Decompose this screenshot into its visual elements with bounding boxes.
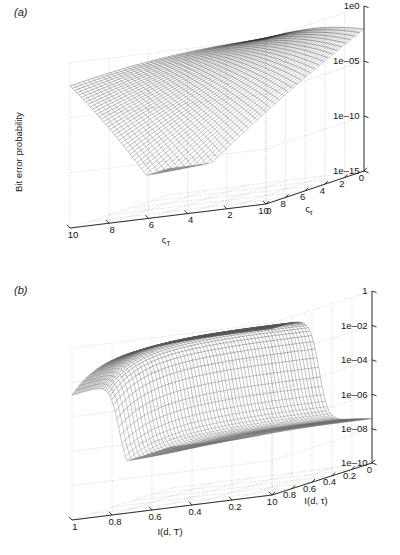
panel-a: (a) Bit error probability 1e01e–051e–101… <box>0 0 400 278</box>
z-tick-label: 1e–02 <box>341 320 367 331</box>
x-tick-label: 1 <box>267 496 272 507</box>
z-tick-label: 1e–15 <box>333 165 359 176</box>
x-tick-label: 8 <box>280 198 285 209</box>
x-tick-label: 0 <box>367 464 372 475</box>
y-tick-label: 1 <box>72 521 77 532</box>
z-tick-label: 1e–06 <box>341 389 367 400</box>
y-tick-label: 0.4 <box>188 506 201 517</box>
z-tick-label: 1e–10 <box>333 110 359 121</box>
panel-b: (b) Bit error probability 11e–021e–041e–… <box>0 278 400 555</box>
z-tick-label: 1e–10 <box>341 457 367 468</box>
y-tick-label: 0.8 <box>108 516 121 527</box>
z-tick-label: 1e–04 <box>341 354 367 365</box>
y-tick-label: 8 <box>110 224 115 235</box>
z-tick-label: 1e–05 <box>333 55 359 66</box>
y-tick-label: 6 <box>149 219 154 230</box>
y-tick-label: 0 <box>272 496 277 507</box>
x-tick-label: 4 <box>320 185 325 196</box>
panel-a-plot: 1e01e–051e–101e–1502468100246810ςτςT <box>0 0 400 278</box>
x-tick-label: 0.6 <box>303 483 316 494</box>
z-tick-label: 1e–08 <box>341 423 367 434</box>
x-axis-title: I(d, τ) <box>304 495 327 506</box>
y-tick-label: 2 <box>227 209 232 220</box>
panel-b-plot: 11e–021e–041e–061e–081e–1000.20.40.60.81… <box>0 278 400 555</box>
y-tick-label: 10 <box>68 229 79 240</box>
y-tick-label: 0 <box>266 205 271 216</box>
z-tick-label: 1 <box>362 285 367 296</box>
x-tick-label: 0 <box>359 172 364 183</box>
y-axis-title: I(d, T) <box>157 526 182 537</box>
y-tick-label: 4 <box>188 214 193 225</box>
x-tick-label: 2 <box>339 178 344 189</box>
x-tick-label: 0.8 <box>283 489 296 500</box>
x-tick-label: 6 <box>300 191 305 202</box>
y-axis-title: ςT <box>162 234 172 246</box>
y-tick-label: 0.6 <box>148 511 161 522</box>
z-tick-label: 1e0 <box>344 0 360 11</box>
figure-root: (a) Bit error probability 1e01e–051e–101… <box>0 0 400 555</box>
x-tick-label: 0.4 <box>323 476 336 487</box>
x-axis-title: ςτ <box>305 203 313 215</box>
x-tick-label: 0.2 <box>343 470 356 481</box>
y-tick-label: 0.2 <box>228 501 241 512</box>
